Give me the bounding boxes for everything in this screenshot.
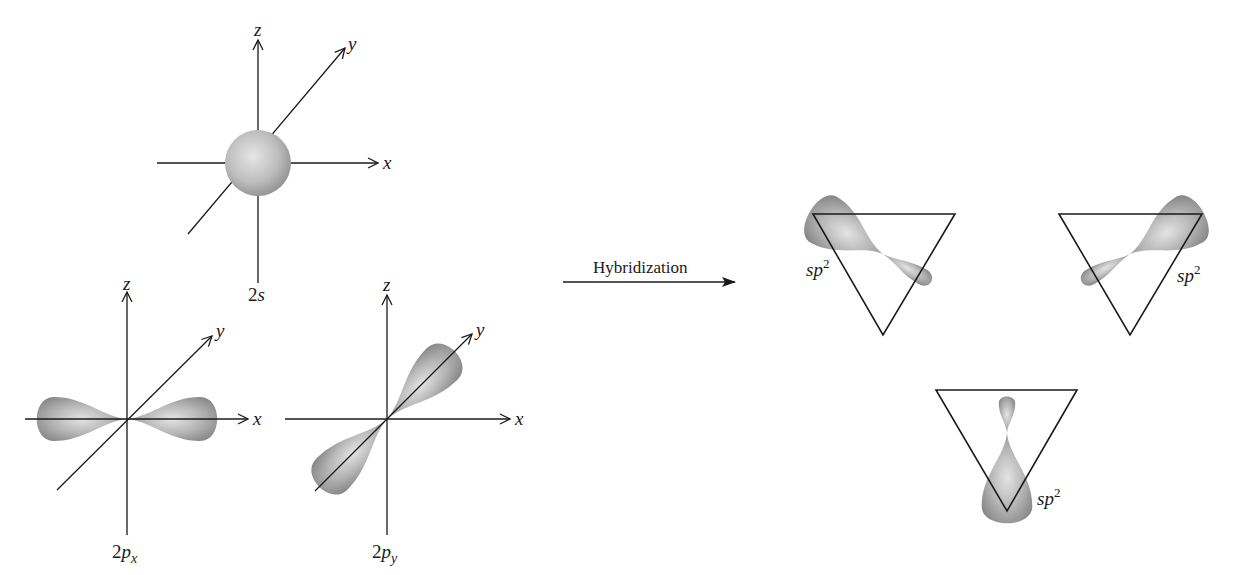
orbital-label-2s: 2s [248, 284, 265, 305]
orbital-2py: z y x 2py [285, 274, 524, 566]
orbital-2px: z y x 2px [25, 273, 262, 566]
z-axis-label: z [253, 19, 262, 40]
small-lobe [999, 397, 1016, 433]
y-axis-label: y [346, 33, 357, 54]
orbital-2s: z y x 2s [157, 19, 392, 305]
orbital-label-2px: 2px [112, 541, 138, 566]
z-axis-label: z [122, 273, 131, 294]
y-axis-label: y [474, 319, 485, 340]
hybrid-label: sp2 [806, 256, 829, 280]
hybridization-diagram: z y x 2s z y x 2px z y x 2py Hybridizat [0, 0, 1240, 575]
x-axis-label: x [252, 408, 262, 429]
small-lobe [1078, 247, 1134, 289]
hybridization-arrow: Hybridization [563, 258, 735, 282]
x-axis-label: x [382, 152, 392, 173]
z-axis-label: z [382, 274, 391, 295]
x-axis-label: x [514, 408, 524, 429]
hybrid-label: sp2 [1177, 262, 1200, 286]
sp2-hybrid-upper-right: sp2 [1059, 189, 1216, 335]
big-lobe [1117, 189, 1217, 277]
orbital-label-2py: 2py [372, 541, 398, 566]
y-axis-label: y [214, 320, 225, 341]
sp2-hybrid-down: sp2 [936, 390, 1077, 523]
y-axis [315, 334, 472, 491]
s-orbital-sphere [225, 130, 291, 196]
small-lobe [879, 247, 935, 289]
hybrid-label: sp2 [1037, 485, 1060, 509]
sp2-hybrid-upper-left: sp2 [797, 189, 955, 335]
hybridization-label: Hybridization [593, 258, 688, 277]
